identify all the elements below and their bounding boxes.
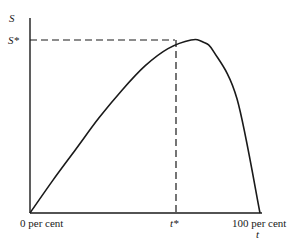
x-hundred-label: 100 per cent bbox=[232, 217, 286, 229]
t-star-label: t* bbox=[170, 217, 179, 229]
y-axis-label: S bbox=[9, 12, 15, 24]
chart-canvas bbox=[0, 0, 297, 242]
x-axis-label: t bbox=[256, 228, 259, 240]
x-zero-label: 0 per cent bbox=[20, 217, 63, 229]
s-curve bbox=[30, 39, 260, 213]
s-star-label: S* bbox=[8, 34, 19, 46]
